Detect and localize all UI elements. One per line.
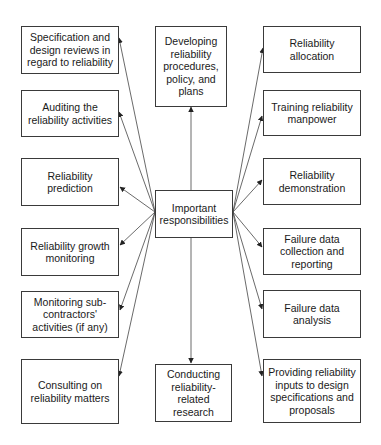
node-monitoring-subcontractors: Monitoring sub-contractors' activities (… <box>21 291 119 338</box>
node-training-manpower: Training reliability manpower <box>263 90 361 136</box>
node-specification-design-reviews: Specification and design reviews in rega… <box>21 26 119 74</box>
node-label: Auditing the reliability activities <box>25 101 115 126</box>
node-label: Reliability allocation <box>267 37 357 62</box>
center-node-label: Important responsibilities <box>159 202 229 227</box>
node-reliability-demonstration: Reliability demonstration <box>263 158 361 205</box>
node-reliability-growth-monitoring: Reliability growth monitoring <box>21 228 119 276</box>
node-reliability-prediction: Reliability prediction <box>21 158 119 206</box>
node-label: Training reliability manpower <box>267 101 357 126</box>
node-failure-data-analysis: Failure data analysis <box>263 290 361 338</box>
node-label: Monitoring sub-contractors' activities (… <box>25 296 115 334</box>
node-label: Reliability demonstration <box>267 169 357 194</box>
node-label: Conducting reliability-related research <box>159 368 228 418</box>
node-label: Developing reliability procedures, polic… <box>159 35 223 98</box>
node-reliability-allocation: Reliability allocation <box>263 26 361 73</box>
node-conducting-research: Conducting reliability-related research <box>155 364 232 422</box>
node-label: Providing reliability inputs to design s… <box>267 366 357 416</box>
node-label: Consulting on reliability matters <box>25 379 115 404</box>
node-label: Reliability prediction <box>25 170 115 195</box>
node-failure-data-collection: Failure data collection and reporting <box>263 228 361 275</box>
node-label: Failure data collection and reporting <box>267 233 357 271</box>
node-label: Reliability growth monitoring <box>25 240 115 265</box>
node-label: Specification and design reviews in rega… <box>25 31 115 69</box>
center-node-important-responsibilities: Important responsibilities <box>155 190 233 238</box>
node-label: Failure data analysis <box>267 302 357 327</box>
node-consulting: Consulting on reliability matters <box>21 359 119 424</box>
node-auditing-activities: Auditing the reliability activities <box>21 90 119 137</box>
node-providing-inputs: Providing reliability inputs to design s… <box>263 359 361 423</box>
node-developing-procedures: Developing reliability procedures, polic… <box>155 26 227 107</box>
